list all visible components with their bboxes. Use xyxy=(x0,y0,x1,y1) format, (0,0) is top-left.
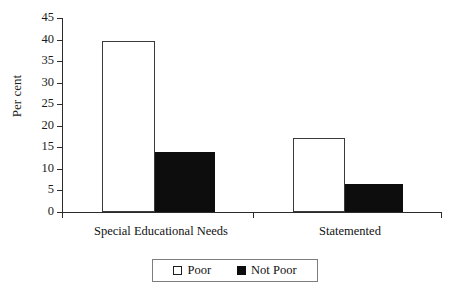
x-axis-tick-0 xyxy=(62,212,63,218)
chart-legend: Poor Not Poor xyxy=(152,259,318,282)
legend-swatch-open-square-icon xyxy=(173,266,182,275)
bar-not-poor-0 xyxy=(155,152,215,212)
plot-area xyxy=(62,18,441,212)
y-axis-tick-label-35: 35 xyxy=(26,54,54,67)
x-axis-line xyxy=(62,212,441,213)
y-axis-tick-label-15: 15 xyxy=(26,140,54,153)
y-axis-tick-label-25: 25 xyxy=(26,97,54,110)
legend-label-not-poor: Not Poor xyxy=(251,264,297,277)
bar-poor-0 xyxy=(102,41,155,212)
legend-label-poor: Poor xyxy=(187,264,211,277)
y-axis-tick-label-45: 45 xyxy=(26,11,54,24)
bar-not-poor-1 xyxy=(345,184,403,212)
y-axis-tick-label-30: 30 xyxy=(26,76,54,89)
y-axis-tick-label-0: 0 xyxy=(26,205,54,218)
y-axis-tick-label-20: 20 xyxy=(26,119,54,132)
x-axis-category-label-0: Special Educational Needs xyxy=(66,224,256,239)
y-axis-tick-label-5: 5 xyxy=(26,183,54,196)
legend-swatch-filled-square-icon xyxy=(237,266,246,275)
x-axis-tick-2 xyxy=(441,212,442,218)
bar-poor-1 xyxy=(293,138,345,212)
y-axis-tick-label-10: 10 xyxy=(26,162,54,175)
legend-item-poor[interactable]: Poor xyxy=(173,264,211,277)
y-axis-tick-label-40: 40 xyxy=(26,33,54,46)
x-axis-category-label-1: Statemented xyxy=(258,224,442,239)
legend-item-not-poor[interactable]: Not Poor xyxy=(237,264,297,277)
x-axis-tick-1 xyxy=(253,212,254,218)
y-axis-title: Per cent xyxy=(9,51,25,141)
bar-chart: Per cent 454035302520151050 Special Educ… xyxy=(0,0,451,291)
